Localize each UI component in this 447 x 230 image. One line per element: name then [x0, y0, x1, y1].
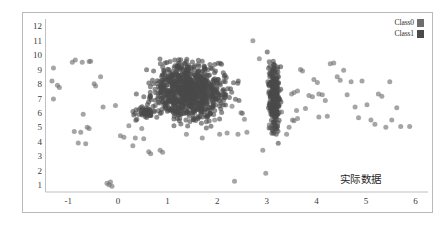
legend-item-class0: Class0 — [395, 18, 424, 27]
chart-frame: 123456789101112 -10123456 Class0 Class1 … — [22, 12, 433, 213]
legend-swatch-class1 — [417, 30, 424, 38]
y-tick-7: 7 — [26, 95, 42, 104]
legend-label-class1: Class1 — [395, 30, 414, 38]
data-points-class0 — [49, 38, 412, 189]
y-tick-11: 11 — [26, 37, 42, 46]
y-tick-4: 4 — [26, 138, 42, 147]
y-tick-9: 9 — [26, 66, 42, 75]
x-tick-4: 4 — [306, 197, 326, 206]
y-tick-12: 12 — [26, 22, 42, 31]
x-tick-1: 1 — [158, 197, 178, 206]
y-tick-6: 6 — [26, 109, 42, 118]
x-tick--1: -1 — [58, 197, 78, 206]
y-tick-1: 1 — [26, 181, 42, 190]
y-tick-8: 8 — [26, 80, 42, 89]
x-tick-0: 0 — [108, 197, 128, 206]
legend-label-class0: Class0 — [395, 19, 414, 27]
y-tick-10: 10 — [26, 51, 42, 60]
y-tick-2: 2 — [26, 167, 42, 176]
chart-annotation: 实际数据 — [340, 171, 382, 186]
legend-item-class1: Class1 — [395, 29, 424, 38]
x-tick-5: 5 — [356, 197, 376, 206]
y-tick-3: 3 — [26, 152, 42, 161]
x-tick-2: 2 — [207, 197, 227, 206]
scatter-chart: 123456789101112 -10123456 Class0 Class1 … — [0, 0, 447, 230]
chart-legend: Class0 Class1 — [391, 16, 426, 42]
y-tick-5: 5 — [26, 123, 42, 132]
data-points-class1 — [130, 49, 283, 145]
x-tick-3: 3 — [257, 197, 277, 206]
x-tick-6: 6 — [406, 197, 426, 206]
legend-swatch-class0 — [417, 19, 424, 27]
